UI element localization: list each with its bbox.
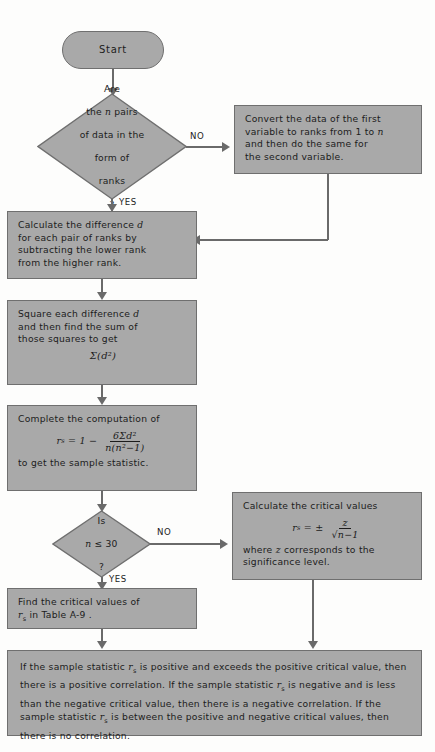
formula-denominator: n(n²−1) xyxy=(102,442,147,453)
connector-convert-down xyxy=(327,174,329,240)
critical-numerator: z xyxy=(339,517,350,529)
decision-ranks-line1: Are xyxy=(80,83,145,95)
node-complete-computation-outro: to get the sample statistic. xyxy=(18,457,188,470)
arrowhead-right-calc-critical xyxy=(220,539,228,549)
node-complete-computation[interactable]: Complete the computation of rs = 1 − 6Σd… xyxy=(7,405,197,491)
node-conclusion-text: If the sample statistic rs is positive a… xyxy=(20,660,409,742)
decision-n30-line1: Is xyxy=(85,515,117,527)
node-find-critical-values[interactable]: Find the critical values of rs in Table … xyxy=(7,588,197,629)
critical-denominator: √n−1 xyxy=(328,529,361,540)
formula-eq: = 1 − xyxy=(68,435,97,448)
decision-ranks-label: Are the n pairs of data in the form of r… xyxy=(37,93,187,200)
node-decision-ranks[interactable]: Are the n pairs of data in the form of r… xyxy=(37,93,187,200)
node-start[interactable]: Start xyxy=(62,31,164,69)
decision-n30-line3: ? xyxy=(85,561,117,573)
node-convert-ranks[interactable]: Convert the data of the first variable t… xyxy=(234,105,422,174)
node-find-critical-line2: rs in Table A-9 . xyxy=(18,609,188,625)
flowchart-canvas: Start Are the n pairs of data in the for… xyxy=(0,0,435,752)
decision-ranks-line2: the n pairs xyxy=(80,106,145,118)
node-start-label: Start xyxy=(99,44,127,57)
node-convert-ranks-text: Convert the data of the first variable t… xyxy=(245,113,413,163)
connector-convert-left xyxy=(198,239,328,241)
critical-rs-sub: s xyxy=(297,522,301,535)
edge-label-n30-no: NO xyxy=(157,527,171,537)
decision-n30-label: Is n ≤ 30 ? xyxy=(52,510,151,578)
node-decision-n30[interactable]: Is n ≤ 30 ? xyxy=(52,510,151,578)
node-calculate-difference[interactable]: Calculate the difference d for each pair… xyxy=(7,211,197,279)
node-complete-computation-intro: Complete the computation of xyxy=(18,413,188,426)
arrowhead-down-conclusion-left xyxy=(97,641,107,649)
connector-calccritical-to-conclusion xyxy=(312,580,314,647)
critical-eq: = ± xyxy=(304,522,324,535)
critical-fraction: z √n−1 xyxy=(328,517,361,540)
node-calculate-difference-text: Calculate the difference d for each pair… xyxy=(18,219,188,269)
node-conclusion[interactable]: If the sample statistic rs is positive a… xyxy=(7,650,422,736)
node-square-difference-formula: Σ(d²) xyxy=(18,350,188,363)
decision-ranks-line4: form of xyxy=(80,152,145,164)
arrowhead-down-complete xyxy=(97,397,107,405)
decision-ranks-line5: ranks xyxy=(80,175,145,187)
node-calc-critical-outro: where z corresponds to the significance … xyxy=(243,544,413,569)
edge-label-ranks-no: NO xyxy=(190,131,204,141)
formula-numerator: 6Σd² xyxy=(110,430,140,442)
decision-ranks-line3: of data in the xyxy=(80,129,145,141)
edge-label-ranks-yes: YES xyxy=(119,197,137,207)
connector-ranks-no xyxy=(186,146,225,148)
node-find-critical-line1: Find the critical values of xyxy=(18,596,188,609)
arrowhead-down-conclusion-right xyxy=(308,641,318,649)
arrowhead-down-square xyxy=(97,292,107,300)
node-complete-computation-formula: rs = 1 − 6Σd² n(n²−1) xyxy=(18,430,188,453)
formula-rs-sub: s xyxy=(61,435,65,448)
node-square-difference[interactable]: Square each difference d and then find t… xyxy=(7,300,197,385)
edge-label-n30-yes: YES xyxy=(109,574,127,584)
node-calc-critical-intro: Calculate the critical values xyxy=(243,500,413,513)
connector-n30-no xyxy=(150,543,223,545)
formula-fraction: 6Σd² n(n²−1) xyxy=(102,430,147,453)
node-calc-critical-formula: rs = ± z √n−1 xyxy=(243,517,413,540)
node-square-difference-text: Square each difference d and then find t… xyxy=(18,308,188,346)
node-calc-critical-values[interactable]: Calculate the critical values rs = ± z √… xyxy=(232,492,422,580)
arrowhead-right-convert xyxy=(222,142,230,152)
decision-n30-line2: n ≤ 30 xyxy=(85,538,117,550)
